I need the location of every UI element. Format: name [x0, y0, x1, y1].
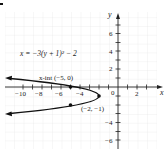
x-tick-label: −10	[15, 90, 26, 98]
x-axis-label: x	[159, 88, 164, 97]
parabola-chart: x y 0 −10 −8 −6 −4 2 6 4 2 −4 −6 x = −3(…	[0, 0, 167, 149]
vertex-label: (−2, −1)	[81, 105, 105, 113]
x-tick-label: −4	[76, 90, 84, 98]
y-axis-label: y	[107, 10, 112, 19]
x-tick-label: −8	[35, 90, 43, 98]
y-tick-label: 4	[109, 48, 113, 56]
y-tick-label: 6	[109, 30, 113, 38]
y-tick-label: 2	[109, 65, 113, 73]
x-tick-label: 2	[135, 90, 139, 98]
x-tick-label: −6	[55, 90, 63, 98]
x-intercept-point	[69, 85, 73, 89]
vertex-point	[97, 94, 101, 98]
origin-label: 0	[111, 89, 115, 97]
y-tick-label: −6	[105, 137, 113, 145]
y-tick-label: −4	[105, 119, 113, 127]
equation-label: x = −3(y + 1)² − 2	[19, 49, 77, 58]
x-intercept-label: x-int (−5, 0)	[39, 74, 74, 82]
mirror-point	[69, 103, 73, 107]
